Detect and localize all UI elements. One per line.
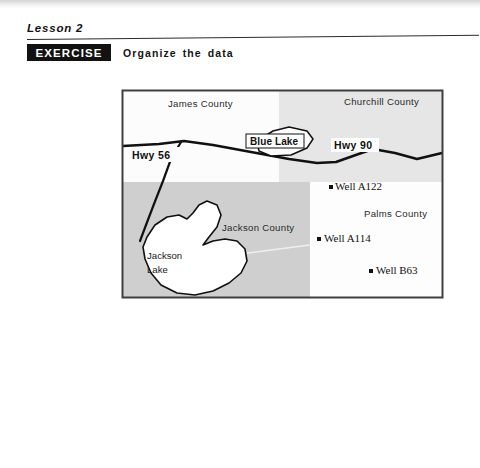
lesson-label: Lesson 2 — [27, 22, 83, 34]
well-point-icon — [329, 185, 333, 189]
well-label-a122: Well A122 — [335, 180, 382, 192]
answer-table: layer feature type LAKES POLYGON HIGHWAY… — [0, 318, 480, 468]
well-point-icon — [369, 269, 373, 273]
well-marker-a122: Well A122 — [329, 180, 382, 192]
county-label-churchill: Churchill County — [344, 96, 419, 107]
county-label-james: James County — [168, 98, 233, 109]
svg-text:Jackson: Jackson — [147, 250, 182, 261]
well-label-a114: Well A114 — [324, 232, 371, 244]
highway-label-56: Hwy 56 — [130, 147, 180, 162]
well-point-icon — [317, 237, 321, 241]
county-label-jackson: Jackson County — [222, 222, 294, 233]
well-label-b63: Well B63 — [376, 264, 418, 276]
svg-text:Hwy 90: Hwy 90 — [334, 139, 373, 151]
svg-text:Hwy 56: Hwy 56 — [132, 149, 171, 161]
exercise-title: Organize the data — [123, 47, 234, 59]
svg-text:Blue Lake: Blue Lake — [250, 136, 298, 147]
svg-text:Lake: Lake — [147, 264, 168, 275]
highway-label-90: Hwy 90 — [331, 138, 379, 152]
header-divider — [27, 35, 479, 40]
well-marker-b63: Well B63 — [369, 264, 418, 276]
well-marker-a114: Well A114 — [317, 232, 371, 244]
scan-artifact-band — [0, 0, 480, 9]
county-label-palms: Palms County — [364, 208, 427, 219]
lake-label-blue: Blue Lake — [246, 134, 304, 148]
map-figure: James County Churchill County Jackson Co… — [121, 89, 444, 299]
exercise-badge: EXERCISE — [27, 44, 111, 61]
